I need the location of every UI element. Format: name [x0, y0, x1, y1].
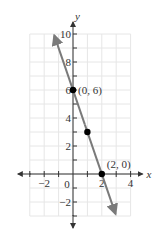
points: (0, 6)(2, 0) — [70, 84, 131, 177]
x-tick-label: −2 — [38, 177, 50, 189]
data-point — [70, 87, 76, 93]
x-tick-label: 4 — [128, 177, 134, 189]
y-tick-label: 10 — [60, 28, 72, 40]
data-point-label: (0, 6) — [78, 84, 102, 97]
origin-label: 0 — [64, 178, 70, 190]
chart: −224108642−2 (0, 6)(2, 0) x y 0 — [0, 0, 159, 234]
y-tick-label: −2 — [59, 196, 71, 208]
y-tick-label: 4 — [66, 112, 72, 124]
x-axis-label: x — [146, 168, 152, 180]
y-tick-label: 8 — [66, 56, 72, 68]
data-point — [84, 129, 90, 135]
y-axis-label: y — [74, 10, 80, 22]
data-point — [99, 171, 105, 177]
axes — [18, 22, 143, 228]
y-tick-label: 2 — [66, 140, 72, 152]
data-point-label: (2, 0) — [107, 158, 131, 171]
